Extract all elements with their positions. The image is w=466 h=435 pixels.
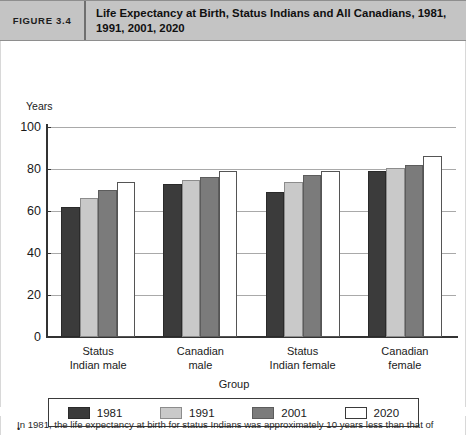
bar-1991-status-indian-male xyxy=(80,198,99,337)
x-axis-title: Group xyxy=(1,378,466,390)
bars-group xyxy=(47,127,456,337)
x-tick-label-line-1: Canadian xyxy=(342,345,466,359)
y-tick-label-80: 80 xyxy=(27,162,41,176)
bar-1991-canadian-male xyxy=(182,180,201,338)
bar-2020-status-indian-female xyxy=(321,171,340,337)
figure-number-label: FIGURE 3.4 xyxy=(13,15,72,26)
y-tick-label-40: 40 xyxy=(27,246,41,260)
footnote-text: In 1981, the life expectancy at birth fo… xyxy=(17,419,434,430)
x-tick-label-line-2: female xyxy=(342,359,466,373)
bar-2001-canadian-male xyxy=(200,177,219,337)
figure-number-cell: FIGURE 3.4 xyxy=(0,1,86,40)
footnote-line: • In 1981, the life expectancy at birth … xyxy=(17,419,466,431)
y-tick-label-0: 0 xyxy=(34,330,41,344)
bullet-icon: • xyxy=(17,424,20,435)
bar-1981-canadian-female xyxy=(368,171,387,337)
bar-1981-status-indian-female xyxy=(266,192,285,337)
y-tick-label-60: 60 xyxy=(27,204,41,218)
bar-2001-status-indian-female xyxy=(303,175,322,337)
figure-title-cell: Life Expectancy at Birth, Status Indians… xyxy=(86,1,466,40)
y-tick-0 xyxy=(46,337,51,338)
bar-2001-status-indian-male xyxy=(98,190,117,337)
figure-header: FIGURE 3.4 Life Expectancy at Birth, Sta… xyxy=(0,0,466,41)
bar-2020-canadian-female xyxy=(423,156,442,337)
bar-2020-status-indian-male xyxy=(117,182,136,337)
chart-area: Years 020406080100 StatusIndian maleCana… xyxy=(0,41,466,407)
bar-1981-status-indian-male xyxy=(61,207,80,337)
x-tick-label-canadian-female: Canadianfemale xyxy=(342,345,466,373)
bar-2001-canadian-female xyxy=(405,165,424,337)
footnote-area: • In 1981, the life expectancy at birth … xyxy=(0,416,466,435)
y-tick-label-20: 20 xyxy=(27,288,41,302)
x-axis-tick-labels: StatusIndian maleCanadianmaleStatusIndia… xyxy=(47,341,456,381)
y-tick-label-100: 100 xyxy=(20,120,41,134)
bar-2020-canadian-male xyxy=(219,171,238,337)
figure-title: Life Expectancy at Birth, Status Indians… xyxy=(96,6,458,35)
bar-1991-status-indian-female xyxy=(284,182,303,337)
y-axis-title: Years xyxy=(26,100,52,112)
bar-1991-canadian-female xyxy=(386,168,405,337)
y-axis-ticks: 020406080100 xyxy=(9,127,41,337)
bar-1981-canadian-male xyxy=(163,184,182,337)
